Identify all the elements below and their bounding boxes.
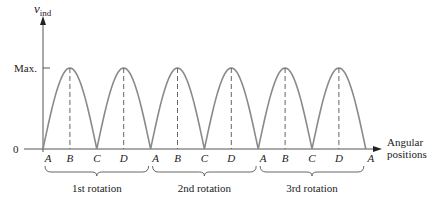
position-labels: ABCDABCDABCDA xyxy=(44,152,375,164)
position-label: C xyxy=(93,152,101,164)
position-label: C xyxy=(308,152,316,164)
induced-voltage-diagram: vind Max. 0 Angular positions ABCDABCDAB… xyxy=(0,0,444,204)
y-axis-label: vind xyxy=(34,1,52,18)
rotation-brace xyxy=(260,166,364,176)
x-axis-arrow-icon xyxy=(373,146,382,152)
position-label: D xyxy=(334,152,343,164)
position-label: C xyxy=(201,152,209,164)
position-label: A xyxy=(259,152,267,164)
y-tick-zero: 0 xyxy=(13,143,19,155)
position-label: B xyxy=(67,152,74,164)
rotation-braces: 1st rotation2nd rotation3rd rotation xyxy=(45,166,364,194)
position-label: A xyxy=(366,152,374,164)
rotation-label: 3rd rotation xyxy=(286,182,338,194)
rotation-brace xyxy=(153,166,257,176)
rotation-label: 1st rotation xyxy=(72,182,122,194)
peak-dashed-lines xyxy=(70,68,339,149)
x-axis-label-line1: Angular xyxy=(387,136,423,148)
y-tick-max: Max. xyxy=(14,62,37,74)
voltage-curve xyxy=(43,68,366,149)
rotation-brace xyxy=(45,166,149,176)
position-label: A xyxy=(44,152,52,164)
position-label: B xyxy=(282,152,289,164)
position-label: D xyxy=(119,152,128,164)
position-label: A xyxy=(151,152,159,164)
x-axis-label-line2: positions xyxy=(387,148,427,160)
position-label: B xyxy=(174,152,181,164)
position-label: D xyxy=(226,152,235,164)
rotation-label: 2nd rotation xyxy=(178,182,232,194)
